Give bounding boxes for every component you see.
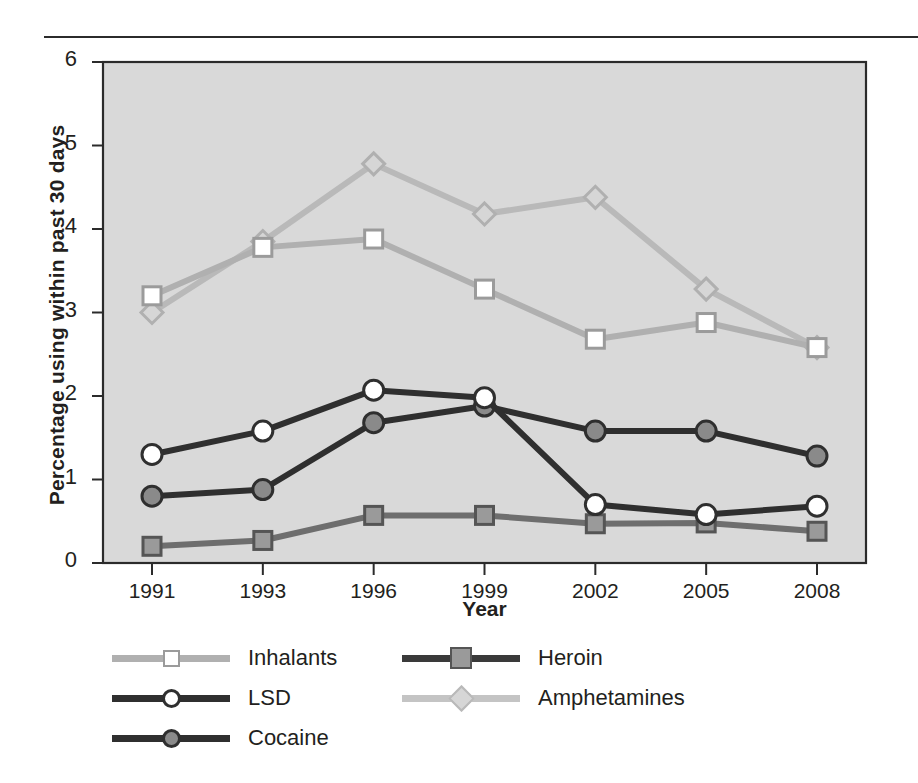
x-axis-title: Year [103, 597, 866, 621]
data-point-open-square [254, 238, 272, 256]
legend-label-amphetamines: Amphetamines [538, 685, 685, 711]
data-point-open-circle [696, 505, 716, 525]
data-point-filled-circle [142, 486, 162, 506]
data-point-open-circle [585, 495, 605, 515]
open-square-icon [163, 650, 180, 667]
data-point-open-circle [475, 388, 495, 408]
figure: 0123456 1991199319961999200220052008 Per… [0, 0, 918, 783]
data-point-filled-square [808, 522, 826, 540]
data-point-open-circle [253, 421, 273, 441]
data-point-open-square [476, 280, 494, 298]
data-point-open-circle [364, 380, 384, 400]
legend-label-cocaine: Cocaine [248, 725, 329, 751]
data-point-filled-square [586, 515, 604, 533]
legend-swatch-amphetamines [402, 684, 520, 712]
y-axis-title: Percentage using within past 30 days [45, 75, 69, 555]
legend-swatch-inhalants [112, 644, 230, 672]
data-point-filled-square [476, 506, 494, 524]
filled-diamond-icon [448, 685, 475, 712]
data-point-filled-square [143, 537, 161, 555]
data-point-filled-square [365, 506, 383, 524]
legend-item-heroin[interactable]: Heroin [402, 638, 685, 678]
legend-item-cocaine[interactable]: Cocaine [112, 718, 337, 758]
legend-swatch-heroin [402, 644, 520, 672]
legend-swatch-cocaine [112, 724, 230, 752]
legend-label-heroin: Heroin [538, 645, 603, 671]
data-point-open-square [808, 339, 826, 357]
data-point-open-square [586, 330, 604, 348]
data-point-open-circle [807, 496, 827, 516]
open-circle-icon [162, 689, 181, 708]
legend-label-inhalants: Inhalants [248, 645, 337, 671]
x-axis-ticks [152, 563, 817, 575]
data-point-filled-circle [585, 421, 605, 441]
data-point-filled-circle [253, 480, 273, 500]
legend-label-lsd: LSD [248, 685, 291, 711]
data-point-open-square [697, 314, 715, 332]
data-point-filled-circle [696, 421, 716, 441]
data-point-open-square [365, 230, 383, 248]
legend-item-inhalants[interactable]: Inhalants [112, 638, 337, 678]
legend-item-amphetamines[interactable]: Amphetamines [402, 678, 685, 718]
y-axis-ticks [92, 62, 103, 563]
filled-square-icon [450, 647, 472, 669]
legend-item-lsd[interactable]: LSD [112, 678, 337, 718]
data-point-open-circle [142, 444, 162, 464]
legend-swatch-lsd [112, 684, 230, 712]
data-point-filled-circle [807, 446, 827, 466]
legend-column-left: Inhalants LSD Cocaine [112, 638, 337, 758]
filled-circle-icon [162, 729, 181, 748]
data-point-open-square [143, 287, 161, 305]
data-point-filled-circle [364, 413, 384, 433]
y-tick-label: 6 [37, 46, 77, 72]
legend-column-right: Heroin Amphetamines [402, 638, 685, 718]
data-point-filled-square [254, 531, 272, 549]
